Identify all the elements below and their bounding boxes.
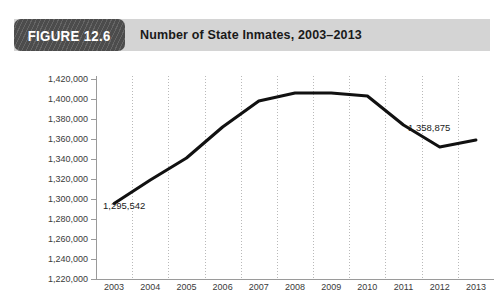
- plot-area: 1,420,0001,400,0001,380,0001,360,0001,34…: [0, 0, 504, 294]
- series-line-chart: [0, 0, 504, 294]
- figure-container: FIGURE 12.6 Number of State Inmates, 200…: [0, 0, 504, 294]
- inmates-series-line: [114, 93, 476, 204]
- first-point-label: 1,295,542: [103, 200, 145, 211]
- last-point-label: 1,358,875: [408, 122, 450, 133]
